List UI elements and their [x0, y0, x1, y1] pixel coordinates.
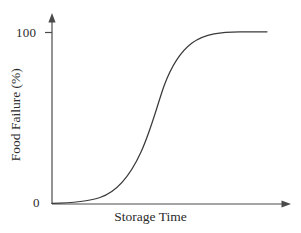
- chart-figure: 100 0 Storage Time Food Failure (%): [0, 0, 301, 233]
- y-axis-title: Food Failure (%): [9, 25, 23, 205]
- y-axis-tick-label-0: 0: [33, 196, 40, 209]
- y-axis-arrowhead: [48, 13, 55, 23]
- x-axis-arrowhead: [282, 200, 292, 207]
- plot-area: [0, 0, 301, 233]
- y-axis-title-container: Food Failure (%): [0, 0, 30, 233]
- x-axis-title: Storage Time: [0, 210, 301, 224]
- food-failure-curve: [52, 32, 267, 204]
